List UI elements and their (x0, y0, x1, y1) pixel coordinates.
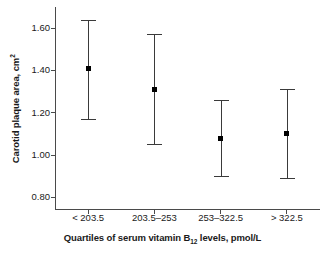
errorbar-lower-cap (147, 144, 162, 145)
errorbar-lower-cap (280, 178, 295, 179)
y-axis-tick-label: 1.20 (16, 108, 50, 118)
plot-area (55, 7, 320, 210)
y-axis-tick-mark (51, 70, 55, 71)
x-axis-title-text: Quartiles of serum vitamin B (64, 232, 191, 243)
y-axis-tick-label: 1.00 (16, 150, 50, 160)
errorbar-upper-cap (280, 89, 295, 90)
y-axis-tick-mark (51, 28, 55, 29)
errorbar-upper-cap (147, 34, 162, 35)
x-axis-line (55, 209, 320, 210)
y-axis-line (55, 7, 56, 210)
x-axis-title: Quartiles of serum vitamin B12 levels, p… (0, 232, 325, 243)
errorbar-upper-cap (214, 100, 229, 101)
data-point-marker (218, 136, 223, 141)
y-axis-tick-mark (51, 197, 55, 198)
errorbar-lower-cap (214, 176, 229, 177)
y-axis-tick-mark (51, 155, 55, 156)
x-axis-title-tail: levels, pmol/L (197, 232, 261, 243)
x-axis-tick-label: > 322.5 (242, 213, 325, 223)
data-point-marker (86, 66, 91, 71)
errorbar-upper-cap (81, 20, 96, 21)
y-axis-tick-mark (51, 112, 55, 113)
errorbar-lower-cap (81, 119, 96, 120)
chart-figure: Carotid plaque area, cm2 0.801.001.201.4… (0, 0, 325, 254)
data-point-marker (284, 131, 289, 136)
y-axis-tick-label: 1.60 (16, 23, 50, 33)
y-axis-tick-label: 1.40 (16, 65, 50, 75)
y-axis-tick-label: 0.80 (16, 192, 50, 202)
x-axis-tick-labels: < 203.5203.5–253253–322.5> 322.5 (55, 213, 320, 229)
data-point-marker (152, 87, 157, 92)
